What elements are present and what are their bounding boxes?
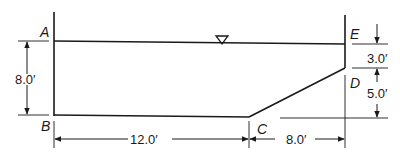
point-label-d: D <box>350 75 360 91</box>
point-label-c: C <box>257 121 268 137</box>
sloped-side <box>249 68 345 117</box>
point-label-b: B <box>41 118 50 134</box>
point-label-e: E <box>350 26 360 42</box>
dim-label-3ft: 3.0′ <box>367 51 388 66</box>
dim-label-5ft: 5.0′ <box>367 86 388 101</box>
channel-diagram: A B C D E 8.0′ 12.0′ 8.0′ 3.0′ 5.0′ <box>0 0 400 158</box>
diagram-svg: A B C D E 8.0′ 12.0′ 8.0′ 3.0′ 5.0′ <box>0 0 400 158</box>
channel-bottom <box>54 115 249 117</box>
dim-label-8ft-horizontal: 8.0′ <box>286 132 307 147</box>
point-label-a: A <box>39 24 49 40</box>
water-surface-line <box>54 41 345 44</box>
dim-label-12ft: 12.0′ <box>130 132 158 147</box>
dim-label-8ft-vertical: 8.0′ <box>15 72 36 87</box>
